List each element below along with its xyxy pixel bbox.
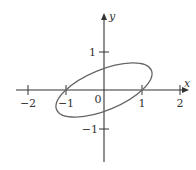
x-axis-label: x — [184, 77, 191, 90]
x-tick-label-2: 2 — [177, 97, 184, 110]
x-tick-label-1: 1 — [139, 97, 146, 110]
y-axis-arrow-icon — [101, 13, 107, 20]
x-tick-label-neg2: −2 — [20, 97, 36, 110]
y-tick-label-1: 1 — [89, 46, 96, 59]
y-tick-label-neg1: −1 — [82, 123, 98, 136]
x-tick-label-neg1: −1 — [58, 97, 74, 110]
coordinate-plane: −2 −1 1 2 1 −1 0 x y — [0, 0, 196, 170]
y-axis-label: y — [108, 10, 116, 23]
origin-label: 0 — [95, 93, 102, 106]
